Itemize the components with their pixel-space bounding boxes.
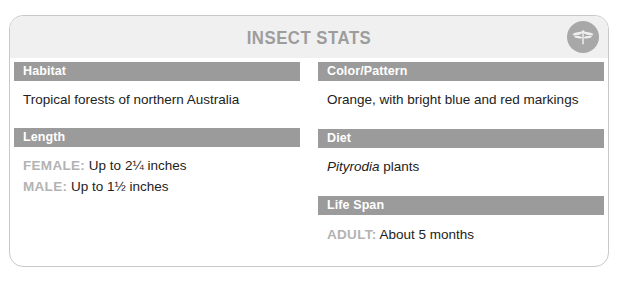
section-diet: Diet Pityrodia plants: [318, 129, 604, 186]
section-header-life-span: Life Span: [318, 196, 604, 215]
section-body-habitat: Tropical forests of northern Australia: [14, 81, 300, 120]
length-male-value: Up to 1½ inches: [71, 179, 169, 194]
length-female-label: FEMALE:: [23, 158, 85, 173]
section-length: Length FEMALE: Up to 2¼ inches MALE: Up …: [14, 128, 300, 205]
diet-genus: Pityrodia: [327, 159, 380, 174]
left-column: Habitat Tropical forests of northern Aus…: [14, 62, 300, 208]
section-life-span: Life Span ADULT: About 5 months: [318, 196, 604, 253]
section-header-color-pattern: Color/Pattern: [318, 62, 604, 81]
habitat-value: Tropical forests of northern Australia: [23, 92, 239, 107]
length-female-value: Up to 2¼ inches: [89, 158, 187, 173]
section-body-diet: Pityrodia plants: [318, 148, 604, 186]
length-male-row: MALE: Up to 1½ inches: [23, 178, 290, 195]
section-body-life-span: ADULT: About 5 months: [318, 215, 604, 253]
section-header-habitat: Habitat: [14, 62, 300, 81]
section-body-length: FEMALE: Up to 2¼ inches MALE: Up to 1½ i…: [14, 147, 300, 205]
right-column: Color/Pattern Orange, with bright blue a…: [318, 62, 604, 256]
section-header-length: Length: [14, 128, 300, 147]
life-span-adult-row: ADULT: About 5 months: [327, 226, 594, 243]
section-header-diet: Diet: [318, 129, 604, 148]
diet-value-suffix: plants: [380, 159, 420, 174]
page-title: INSECT STATS: [46, 27, 572, 49]
section-body-color-pattern: Orange, with bright blue and red marking…: [318, 81, 604, 119]
life-span-adult-label: ADULT:: [327, 227, 377, 242]
card-header: INSECT STATS: [10, 16, 608, 58]
insect-stats-card: INSECT STATS Habitat Tropical forests of…: [9, 15, 609, 267]
length-male-label: MALE:: [23, 179, 67, 194]
color-pattern-value: Orange, with bright blue and red marking…: [327, 92, 578, 107]
section-habitat: Habitat Tropical forests of northern Aus…: [14, 62, 300, 120]
section-color-pattern: Color/Pattern Orange, with bright blue a…: [318, 62, 604, 119]
length-female-row: FEMALE: Up to 2¼ inches: [23, 157, 290, 174]
dragonfly-icon: [567, 21, 599, 53]
life-span-adult-value: About 5 months: [380, 227, 475, 242]
